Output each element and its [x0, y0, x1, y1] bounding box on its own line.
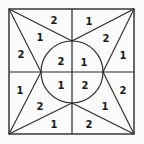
region-label-tl-left: 2 — [18, 49, 25, 60]
region-label-tr-right: 1 — [120, 50, 127, 61]
puzzle-lines — [9, 9, 134, 134]
region-label-tl-mid: 1 — [37, 32, 44, 43]
region-label-bl-left: 1 — [17, 85, 24, 96]
region-label-tl-inner: 2 — [58, 56, 65, 67]
region-label-br-right: 2 — [120, 85, 127, 96]
region-label-tr-top: 1 — [86, 16, 93, 27]
region-label-bl-mid: 2 — [37, 101, 44, 112]
puzzle-svg: 2122121112112122 — [0, 0, 144, 144]
region-label-tr-inner: 1 — [81, 57, 88, 68]
region-label-br-bottom: 2 — [86, 119, 93, 130]
puzzle-diagram: 2122121112112122 — [0, 0, 144, 144]
region-label-bl-bottom: 1 — [51, 119, 58, 130]
region-label-tl-top: 2 — [51, 15, 58, 26]
region-label-br-inner: 2 — [82, 80, 89, 91]
region-label-bl-inner: 1 — [58, 80, 65, 91]
region-label-br-mid: 1 — [102, 101, 109, 112]
region-label-tr-mid: 2 — [103, 33, 110, 44]
